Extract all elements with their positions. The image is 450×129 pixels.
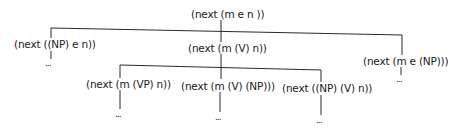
node-m-vp-n: (next (m (VP) n)) xyxy=(86,78,171,90)
node-m-v-np: (next (m (V) (NP))) xyxy=(181,80,275,92)
ellipsis-m-vp-n: ... xyxy=(115,110,121,118)
ellipsis-m-v-np: ... xyxy=(215,113,221,121)
node-np-e-n: (next ((NP) e n)) xyxy=(14,38,96,50)
root-node: (next (m e n )) xyxy=(191,8,264,20)
ellipsis-np-e-n: ... xyxy=(45,59,51,67)
node-m-v-n: (next (m (V) n)) xyxy=(188,42,267,54)
node-m-e-np: (next (m e (NP))) xyxy=(363,55,448,67)
ellipsis-np-v-n: ... xyxy=(316,116,322,124)
ellipsis-m-e-np: ... xyxy=(396,75,402,83)
node-np-v-n: (next ((NP) (V) n)) xyxy=(282,82,372,94)
edge-level1-bar xyxy=(51,28,402,35)
